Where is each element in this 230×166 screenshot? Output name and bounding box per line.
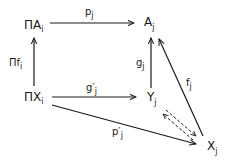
- arrow-dashed-y-to-x: [166, 110, 196, 136]
- svg-text:fj: fj: [186, 77, 192, 91]
- svg-text:gj: gj: [136, 57, 145, 71]
- label-g: gj: [136, 57, 145, 71]
- node-x: Xj: [207, 139, 217, 156]
- svg-text:ΠAi: ΠAi: [24, 18, 43, 34]
- svg-text:Πfi: Πfi: [9, 57, 22, 71]
- node-y: Yj: [146, 90, 157, 107]
- svg-text:pj: pj: [85, 6, 94, 20]
- svg-text:p′j: p′j: [112, 126, 123, 140]
- svg-text:Aj: Aj: [144, 15, 154, 32]
- node-prod-a: ΠAi: [24, 18, 43, 34]
- svg-text:Yj: Yj: [146, 90, 157, 107]
- commutative-diagram: ΠAi Aj ΠXi Yj Xj pj Πfi gj g′j fj p′j: [0, 0, 230, 166]
- label-p: pj: [85, 6, 94, 20]
- label-f: fj: [186, 77, 192, 91]
- arrow-p-prime: [52, 105, 196, 144]
- node-a: Aj: [144, 15, 154, 32]
- label-p-prime: p′j: [112, 126, 123, 140]
- svg-text:Xj: Xj: [207, 139, 217, 156]
- svg-text:g′j: g′j: [86, 82, 97, 96]
- label-g-prime: g′j: [86, 82, 97, 96]
- svg-text:ΠXi: ΠXi: [24, 90, 43, 106]
- arrow-f: [159, 39, 203, 136]
- node-prod-x: ΠXi: [24, 90, 43, 106]
- label-prod-f: Πfi: [9, 57, 22, 71]
